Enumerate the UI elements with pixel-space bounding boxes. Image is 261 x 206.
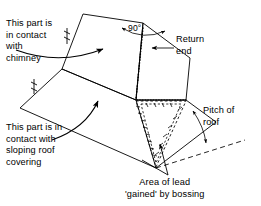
area-gained-wedge-inner	[141, 104, 181, 163]
label-area-gained-by-bossing: Area of lead 'gained' by bossing	[125, 177, 204, 200]
pitch-datum-dashed-line	[156, 140, 245, 168]
fold-tick-chimney	[64, 28, 70, 44]
fold-tick-roof	[31, 79, 37, 94]
label-pitch-of-roof: Pitch of roof	[203, 105, 234, 128]
label-angle-90-degrees: 90°	[128, 23, 141, 33]
label-sloping-roof-contact: This part is in contact with sloping roo…	[6, 122, 62, 168]
label-return-end: Return end	[176, 34, 204, 57]
label-chimney-contact: This part is in contact with chimney	[6, 18, 52, 64]
diagram-canvas: This part is in contact with chimney Ret…	[0, 0, 261, 206]
area-gained-hatch-ticks	[136, 103, 182, 156]
